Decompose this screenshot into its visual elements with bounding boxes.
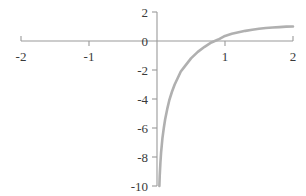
chart-plot-area: -2-112 20-2-4-6-8-10 — [0, 0, 306, 196]
y-tick-label: 0 — [142, 34, 149, 49]
chart-container: -2-112 20-2-4-6-8-10 — [0, 0, 306, 196]
y-tick-label: -2 — [137, 63, 148, 78]
y-tick-label: -8 — [137, 150, 148, 165]
x-tick-label: -1 — [84, 49, 95, 64]
y-tick-label: 2 — [142, 5, 149, 20]
y-tick-label: -4 — [137, 92, 148, 107]
x-axis-tick-labels: -2-112 — [16, 49, 297, 64]
y-axis-ticks — [152, 12, 157, 186]
x-tick-label: 1 — [222, 49, 229, 64]
x-tick-label: 2 — [290, 49, 297, 64]
x-tick-label: -2 — [16, 49, 27, 64]
y-axis-tick-labels: 20-2-4-6-8-10 — [131, 5, 149, 194]
y-tick-label: -10 — [131, 179, 148, 194]
y-tick-label: -6 — [137, 121, 148, 136]
